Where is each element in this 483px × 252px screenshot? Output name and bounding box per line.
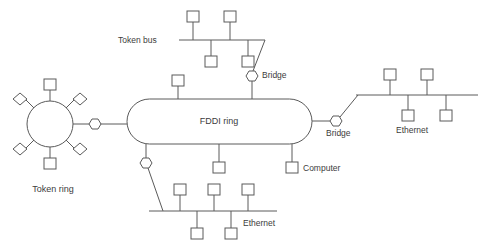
token-ring-spoke-lower-left <box>25 140 34 149</box>
station-square-icon[interactable] <box>402 110 414 121</box>
bridge-hexagon-icon[interactable] <box>246 71 258 81</box>
token-ring-network: Token ring <box>13 79 87 194</box>
station-square-icon[interactable] <box>174 184 186 195</box>
ethernet-bottom-network: Ethernet <box>149 184 277 239</box>
bridge-hexagon-icon[interactable] <box>330 116 342 126</box>
bridge-right-label: Bridge <box>326 128 351 138</box>
ring-station-diamond-icon[interactable] <box>13 143 27 155</box>
bridge-token-ring[interactable] <box>73 119 127 129</box>
token-ring-spoke-upper-left <box>25 99 34 108</box>
ring-station-diamond-icon[interactable] <box>73 143 87 155</box>
token-bus-label: Token bus <box>118 35 157 45</box>
fddi-ring-label: FDDI ring <box>200 116 239 126</box>
station-square-icon[interactable] <box>172 75 184 86</box>
station-square-icon[interactable] <box>191 228 203 239</box>
bridge-hexagon-icon[interactable] <box>89 119 101 129</box>
station-square-icon[interactable] <box>208 184 220 195</box>
bridge-to-ethernet-bottom-link <box>148 168 163 211</box>
bridge-ethernet-bottom[interactable] <box>140 144 163 211</box>
token-bus-network: Token bus <box>118 11 265 71</box>
station-square-icon[interactable] <box>44 158 56 169</box>
computer-square-icon[interactable] <box>286 162 298 173</box>
computer-label: Computer <box>303 163 340 173</box>
ring-station-diamond-icon[interactable] <box>73 93 87 105</box>
token-ring-label: Token ring <box>32 184 74 194</box>
station-square-icon[interactable] <box>187 11 199 22</box>
station-square-icon[interactable] <box>440 110 452 121</box>
fddi-computer-node: Computer <box>286 144 340 173</box>
network-diagram-canvas: Token bus Bridge FDDI ring Computer <box>0 0 483 252</box>
fddi-ring-backbone: FDDI ring <box>127 99 312 144</box>
station-square-icon[interactable] <box>242 56 254 67</box>
station-square-icon[interactable] <box>421 69 433 80</box>
ethernet-right-network: Ethernet <box>356 69 478 135</box>
station-square-icon[interactable] <box>205 56 217 67</box>
bridge-token-bus[interactable]: Bridge <box>246 70 287 99</box>
station-square-icon[interactable] <box>242 184 254 195</box>
ethernet-bottom-label: Ethernet <box>243 218 276 228</box>
token-bus-to-bridge-link <box>253 40 265 71</box>
station-square-icon[interactable] <box>44 79 56 90</box>
ring-station-diamond-icon[interactable] <box>13 93 27 105</box>
bridge-ethernet-right[interactable]: Bridge <box>312 95 358 138</box>
station-square-icon[interactable] <box>384 69 396 80</box>
bridge-to-ethernet-right-link <box>340 95 358 117</box>
station-square-icon[interactable] <box>224 11 236 22</box>
station-square-icon[interactable] <box>213 162 225 173</box>
fddi-station-top <box>172 75 184 99</box>
fddi-station-bottom <box>213 144 225 173</box>
token-ring-spoke-upper-right <box>66 99 75 108</box>
ethernet-right-label: Ethernet <box>396 125 429 135</box>
bridge-top-label: Bridge <box>262 70 287 80</box>
bridge-hexagon-icon[interactable] <box>140 158 152 168</box>
station-square-icon[interactable] <box>225 228 237 239</box>
token-ring-spoke-lower-right <box>66 140 75 149</box>
network-diagram: Token bus Bridge FDDI ring Computer <box>0 0 483 252</box>
